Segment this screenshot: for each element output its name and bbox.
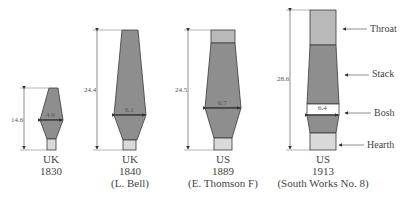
bosh-width-label-2: 6.1 [125,106,134,114]
bosh-width-label-3: 6.7 [218,99,227,107]
furnace-us-1913 [286,10,371,150]
height-label-3: 24.5 [175,86,187,94]
caption-uk-1840: UK 1840 (L. Bell) [111,153,149,189]
bosh-width-label-4: 6.4 [318,104,327,112]
caption-us-1913: US 1913 (South Works No. 8) [277,153,368,189]
height-label-4: 28.6 [277,75,289,83]
bosh-width-label-1: 4.9 [46,111,55,119]
height-label-1: 14.6 [11,116,23,124]
caption-note: (E. Thomson F) [188,177,258,189]
caption-note: (South Works No. 8) [277,177,368,189]
caption-uk-1830: UK 1830 [40,153,62,177]
height-label-2: 24.4 [84,86,96,94]
caption-year: 1840 [111,165,149,177]
caption-year: 1913 [277,165,368,177]
part-label-bosh: Bosh [374,107,395,118]
part-label-stack: Stack [372,68,394,79]
part-label-hearth: Hearth [367,139,394,150]
caption-year: 1889 [188,165,258,177]
furnace-uk-1830 [20,88,63,150]
caption-country: US [188,153,258,165]
caption-country: US [277,153,368,165]
part-label-throat: Throat [370,23,397,34]
caption-year: 1830 [40,165,62,177]
caption-country: UK [111,153,149,165]
caption-note: (L. Bell) [111,177,149,189]
furnace-uk-1840 [93,30,146,150]
caption-country: UK [40,153,62,165]
furnace-us-1889 [184,30,241,150]
caption-us-1889: US 1889 (E. Thomson F) [188,153,258,189]
